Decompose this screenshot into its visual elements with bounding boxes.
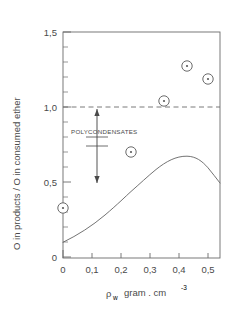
chart-figure: POLYCONDENSATES 1,5 1,0 0,5 0 0 0,1 0,2 … bbox=[0, 0, 238, 309]
chart-svg: POLYCONDENSATES 1,5 1,0 0,5 0 0 0,1 0,2 … bbox=[0, 0, 238, 309]
x-axis-unit-exponent: -3 bbox=[181, 284, 187, 291]
y-tick-label: 1,5 bbox=[44, 27, 57, 38]
y-axis-title: O in products / O in consumed ether bbox=[11, 97, 22, 250]
data-point bbox=[126, 147, 136, 157]
annotation-label-polycondensates: POLYCONDENSATES bbox=[71, 128, 137, 135]
data-point bbox=[58, 203, 68, 213]
y-tick-label: 0,5 bbox=[44, 177, 57, 188]
x-axis-title: ρ w gram . cm -3 bbox=[106, 284, 187, 301]
data-point bbox=[159, 96, 169, 106]
x-tick-label: 0,5 bbox=[201, 264, 214, 275]
data-point bbox=[182, 61, 192, 71]
x-tick-label: 0,3 bbox=[143, 264, 156, 275]
x-axis-symbol-rho: ρ bbox=[106, 288, 112, 299]
x-tick-label: 0 bbox=[60, 264, 65, 275]
data-point bbox=[203, 74, 213, 84]
x-tick-label: 0,4 bbox=[172, 264, 185, 275]
y-tick-label: 1,0 bbox=[44, 102, 57, 113]
x-axis-symbol-subscript: w bbox=[112, 294, 118, 301]
x-tick-label: 0,1 bbox=[85, 264, 98, 275]
x-axis-unit: gram . cm bbox=[124, 287, 166, 298]
plot-frame bbox=[63, 32, 220, 258]
y-tick-label: 0 bbox=[52, 252, 57, 263]
x-tick-label: 0,2 bbox=[114, 264, 127, 275]
